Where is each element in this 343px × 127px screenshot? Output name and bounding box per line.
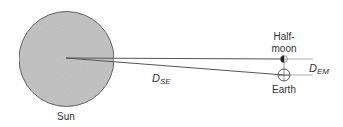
- dse-subscript: SE: [160, 77, 171, 86]
- half-moon-icon: [281, 56, 285, 63]
- earth-label: Earth: [272, 84, 296, 95]
- sun-earth-moon-diagram: [0, 0, 343, 127]
- distance-earth-moon-label: DEM: [309, 62, 329, 74]
- dem-symbol: D: [309, 62, 317, 74]
- half-moon-label-line1: Half-: [273, 31, 294, 42]
- sun-body: [19, 12, 114, 107]
- sun-label: Sun: [57, 111, 75, 122]
- dse-symbol: D: [152, 72, 160, 84]
- dem-subscript: EM: [317, 67, 329, 76]
- half-moon-label-line2: moon: [271, 43, 296, 54]
- distance-sun-earth-label: DSE: [152, 72, 171, 84]
